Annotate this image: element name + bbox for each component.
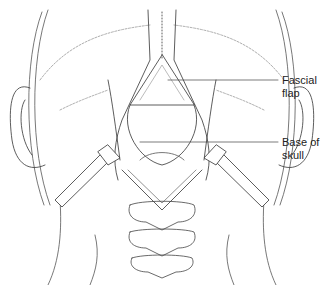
incision-edges xyxy=(108,10,216,180)
label-base-of-skull: Base of skull xyxy=(282,136,319,162)
label-fascial-flap: Fascial flap xyxy=(282,74,317,100)
neck-outline xyxy=(48,200,276,285)
ear-left xyxy=(10,87,45,168)
retractor-left xyxy=(55,145,120,207)
leader-lines xyxy=(140,80,278,142)
illustration-drawing xyxy=(0,0,324,285)
muscle-v xyxy=(122,170,202,210)
vertebrae xyxy=(129,201,195,278)
retractor-right xyxy=(204,145,269,207)
surgical-illustration: Fascial flap Base of skull xyxy=(0,0,324,285)
hairline-wavy xyxy=(40,25,284,110)
base-of-skull-opening xyxy=(127,105,196,165)
